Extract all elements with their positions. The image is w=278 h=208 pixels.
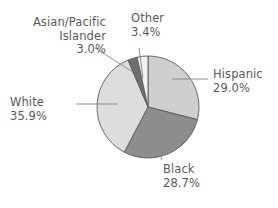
pie-label-asian-pacific-islander: Asian/Pacific Islander 3.0%	[2, 16, 106, 57]
pie-chart-figure: Asian/Pacific Islander 3.0% Other 3.4% H…	[0, 0, 278, 208]
pie-label-other-name: Other	[131, 12, 201, 26]
pie-value-asian-pacific-islander: 3.0%	[2, 43, 106, 57]
pie-label-black-name: Black	[163, 163, 225, 177]
pie-label-asian-pacific-islander-line1: Asian/Pacific	[2, 16, 106, 30]
pie-value-white: 35.9%	[10, 110, 76, 124]
pie-label-hispanic: Hispanic 29.0%	[213, 68, 277, 95]
pie-label-asian-pacific-islander-line2: Islander	[2, 30, 106, 44]
pie-label-black: Black 28.7%	[163, 163, 225, 190]
pie-value-other: 3.4%	[131, 26, 201, 40]
pie-label-other: Other 3.4%	[131, 12, 201, 39]
pie-label-white-name: White	[10, 96, 76, 110]
pie-value-hispanic: 29.0%	[213, 82, 277, 96]
pie-value-black: 28.7%	[163, 177, 225, 191]
pie-label-hispanic-name: Hispanic	[213, 68, 277, 82]
pie-label-white: White 35.9%	[10, 96, 76, 123]
